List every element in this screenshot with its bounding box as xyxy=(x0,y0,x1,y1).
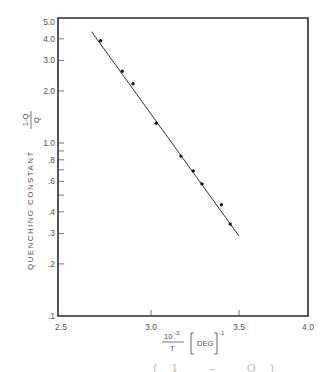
x-axis-ticks: 2.53.03.54.0 xyxy=(55,310,314,332)
y-tick-label: 3.0 xyxy=(43,55,55,65)
x-tick-label: 3.5 xyxy=(233,322,245,332)
data-point xyxy=(121,70,124,73)
x-axis-title-denominator: T xyxy=(170,344,175,353)
y-tick-label: .4 xyxy=(48,207,55,217)
y-tick-label: 5.0 xyxy=(43,17,55,27)
y-axis-title-numerator: 1-Q xyxy=(21,114,30,127)
y-tick-label: .2 xyxy=(48,259,55,269)
y-tick-label: .3 xyxy=(48,228,55,238)
x-tick-label: 2.5 xyxy=(55,322,67,332)
data-point xyxy=(229,222,232,225)
plot-border xyxy=(58,18,308,316)
right-bracket-icon xyxy=(214,333,217,354)
y-axis-title-denominator: Q xyxy=(32,117,41,123)
x-tick-label: 4.0 xyxy=(302,322,314,332)
y-tick-label: 1.0 xyxy=(43,138,55,148)
y-axis-title-main: QUENCHING CONSTANT xyxy=(26,150,35,270)
caption-fragment: (1 – Q) xyxy=(153,360,288,372)
y-axis-title: QUENCHING CONSTANT 1-Q Q xyxy=(21,111,41,270)
x-axis-title-exponent: -3 xyxy=(174,330,180,336)
data-point xyxy=(99,39,102,42)
y-tick-label: .8 xyxy=(48,155,55,165)
x-axis-title-unit-exponent: -1 xyxy=(219,330,225,336)
x-axis-title: 10 -3 T DEG -1 xyxy=(162,330,225,354)
data-point xyxy=(220,203,223,206)
data-point xyxy=(192,169,195,172)
y-tick-label: .6 xyxy=(48,176,55,186)
plot-frame xyxy=(58,18,308,316)
fit-line xyxy=(92,32,239,236)
data-point xyxy=(179,154,182,157)
x-tick-label: 3.0 xyxy=(145,322,157,332)
chart: 5.04.03.02.01.0.8.6.4.3.2.1 2.53.03.54.0… xyxy=(0,0,329,372)
y-tick-label: 4.0 xyxy=(43,34,55,44)
x-axis-title-unit: DEG xyxy=(197,339,213,348)
fit-line-path xyxy=(92,32,239,236)
y-tick-label: .1 xyxy=(48,311,55,321)
data-point xyxy=(200,182,203,185)
y-tick-label: 2.0 xyxy=(43,86,55,96)
x-axis-title-numerator: 10 xyxy=(164,332,172,341)
data-point xyxy=(131,82,134,85)
data-point xyxy=(155,122,158,125)
left-bracket-icon xyxy=(191,333,194,354)
y-axis-ticks: 5.04.03.02.01.0.8.6.4.3.2.1 xyxy=(43,17,64,321)
